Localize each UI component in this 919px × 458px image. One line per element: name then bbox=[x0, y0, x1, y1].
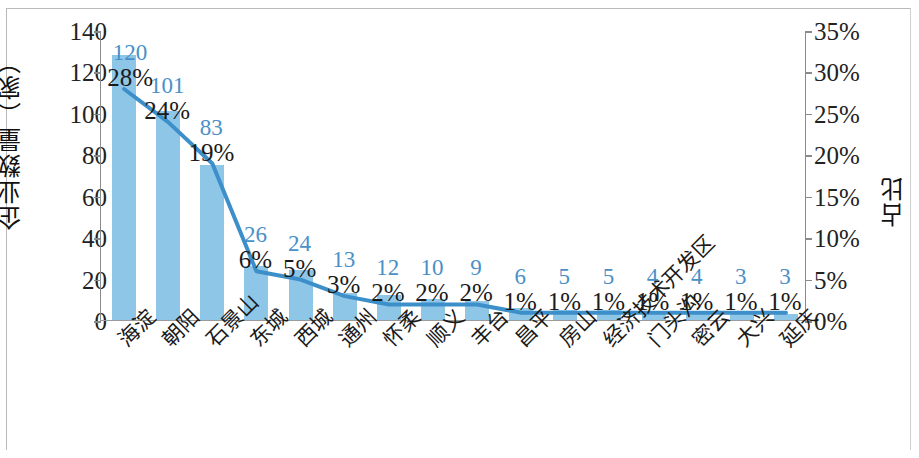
y-axis-right-tick-label: 35% bbox=[814, 19, 884, 44]
page-border-right bbox=[910, 8, 911, 450]
data-label-count: 3 bbox=[754, 265, 816, 288]
y-axis-right-tick-label: 25% bbox=[814, 102, 884, 127]
chart-page: 企业数量（家） 占比 020406080100120140 0%5%10%15%… bbox=[0, 0, 919, 458]
y-axis-right-tick-label: 0% bbox=[814, 309, 884, 334]
y-axis-right-tick-label: 20% bbox=[814, 143, 884, 168]
y-axis-left-tickmark bbox=[94, 321, 101, 323]
data-label-count: 120 bbox=[99, 41, 161, 64]
y-axis-right-tick-label: 5% bbox=[814, 268, 884, 293]
data-label-count: 101 bbox=[136, 74, 198, 97]
y-axis-right-tick-label: 10% bbox=[814, 226, 884, 251]
y-axis-right-tick-label: 30% bbox=[814, 60, 884, 85]
y-axis-right-tick-label: 15% bbox=[814, 185, 884, 210]
y-axis-left-title: 企业数量（家） bbox=[0, 48, 37, 230]
data-label-percent: 19% bbox=[180, 140, 242, 165]
data-label-count: 83 bbox=[180, 116, 242, 139]
